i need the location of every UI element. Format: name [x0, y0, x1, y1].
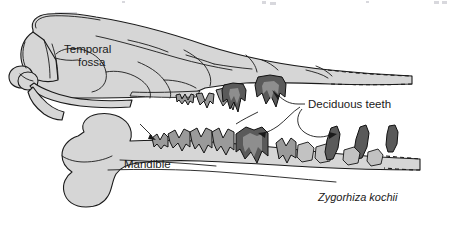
leader-to-upper-deciduous	[278, 95, 305, 104]
leader-upper-secondary	[236, 112, 258, 124]
deciduous-teeth-label: Deciduous teeth	[308, 98, 391, 110]
temporal-fossa-label-line2: fossa	[78, 56, 106, 68]
temporal-fossa-label-line1: Temporal	[64, 43, 111, 55]
mandible-label: Mandible	[124, 158, 171, 170]
scan-artifacts	[55, 1, 447, 15]
leader-to-lower-deciduous	[264, 107, 300, 133]
fossil-skull-figure: Temporal fossa Mandible Deciduous teeth …	[0, 0, 451, 228]
leader-to-erupting-teeth	[298, 109, 330, 137]
species-name-label: Zygorhiza kochii	[317, 191, 398, 203]
